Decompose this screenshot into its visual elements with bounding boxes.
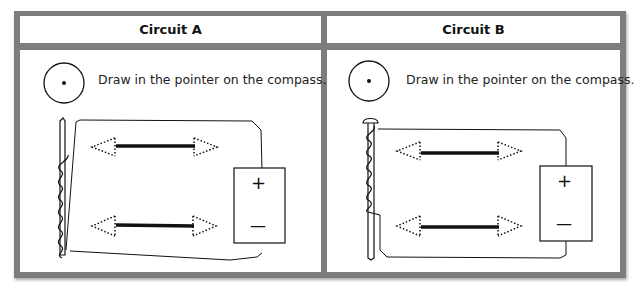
compass-a-icon[interactable] — [44, 63, 84, 103]
wire-b — [378, 129, 566, 258]
coil-b-icon — [367, 126, 380, 215]
battery-a-negative: — — [250, 216, 266, 235]
wire-a — [66, 120, 262, 260]
magnet-b-bottom-icon — [397, 216, 521, 236]
magnet-b-top-icon — [397, 142, 521, 160]
battery-b-negative: — — [556, 214, 572, 233]
magnet-a-top-icon — [92, 138, 217, 156]
nail-b-icon — [363, 119, 378, 261]
magnet-a-bottom-icon — [92, 216, 216, 236]
battery-a-positive: + — [251, 172, 266, 193]
panel-a-circuit-diagram — [0, 0, 640, 291]
battery-b-positive: + — [557, 170, 572, 191]
compass-b-icon[interactable] — [349, 61, 389, 101]
